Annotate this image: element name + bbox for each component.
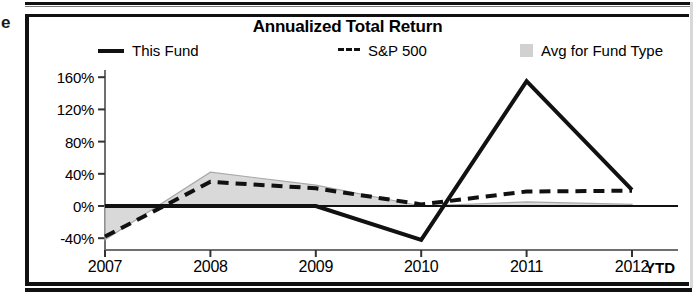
x-axis-tick-label: 2008 <box>193 258 227 276</box>
x-axis-tick-label: 2007 <box>88 258 122 276</box>
x-axis-tick-label: 2010 <box>404 258 438 276</box>
x-axis-ytd-label: YTD <box>645 259 675 276</box>
bottom-border-rule <box>25 288 692 292</box>
x-axis-tick-label: 2011 <box>510 258 543 276</box>
x-axis-tick-label: 2009 <box>299 258 333 276</box>
x-axis-labels: 200720082009201020112012 <box>0 0 695 299</box>
